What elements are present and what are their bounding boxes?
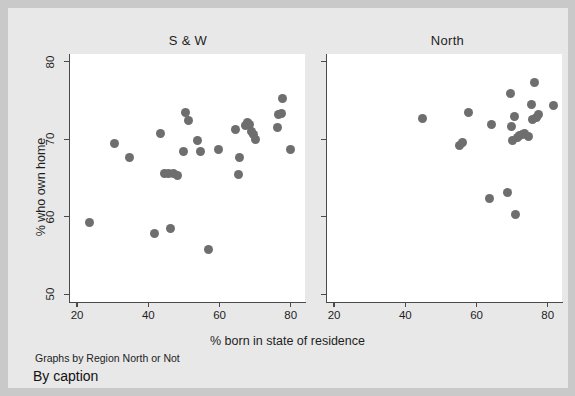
- data-point: [510, 112, 519, 121]
- graph-note: Graphs by Region North or Not: [35, 352, 180, 364]
- y-axis-line-right: [326, 54, 327, 303]
- data-point: [193, 136, 202, 145]
- plot-area-left: [70, 54, 305, 302]
- y-tick-0-0: [64, 294, 70, 295]
- x-tick-label-0-3: 80: [271, 309, 311, 321]
- y-tick-1-3: [321, 61, 327, 62]
- x-tick-1-2: [476, 302, 477, 307]
- data-point: [235, 153, 244, 162]
- data-point: [234, 170, 243, 179]
- graph-caption: By caption: [33, 368, 98, 384]
- page-edge-top: [0, 0, 575, 8]
- x-axis-line-left: [69, 302, 306, 303]
- data-point: [487, 120, 496, 129]
- x-tick-1-1: [405, 302, 406, 307]
- x-tick-0-0: [76, 302, 77, 307]
- data-point: [549, 101, 558, 110]
- data-point: [507, 122, 516, 131]
- y-tick-label-0: 50: [42, 281, 58, 307]
- y-axis-line-left: [69, 54, 70, 303]
- data-point: [506, 89, 515, 98]
- data-point: [156, 129, 165, 138]
- x-axis-title: % born in state of residence: [0, 334, 575, 348]
- data-point: [524, 132, 533, 141]
- y-tick-label-2: 70: [42, 126, 58, 152]
- figure-canvas: S & W North % who own home % born in sta…: [0, 0, 575, 396]
- page-edge-bottom: [0, 388, 575, 396]
- data-point: [530, 78, 539, 87]
- data-point: [418, 114, 427, 123]
- data-point: [196, 147, 205, 156]
- y-tick-0-3: [64, 61, 70, 62]
- data-point: [150, 229, 159, 238]
- x-tick-0-3: [290, 302, 291, 307]
- x-tick-label-1-1: 40: [385, 309, 425, 321]
- y-tick-1-2: [321, 139, 327, 140]
- data-point: [214, 145, 223, 154]
- x-tick-1-3: [547, 302, 548, 307]
- data-point: [485, 194, 494, 203]
- data-point: [286, 145, 295, 154]
- x-tick-label-0-2: 60: [200, 309, 240, 321]
- y-tick-label-1: 60: [42, 204, 58, 230]
- data-point: [110, 139, 119, 148]
- plot-area-right: [327, 54, 562, 302]
- panel-title-left: S & W: [68, 33, 308, 48]
- x-tick-label-0-0: 20: [57, 309, 97, 321]
- data-point: [166, 224, 175, 233]
- x-tick-0-2: [219, 302, 220, 307]
- x-tick-1-0: [333, 302, 334, 307]
- y-tick-1-0: [321, 294, 327, 295]
- data-point: [527, 100, 536, 109]
- data-point: [458, 138, 467, 147]
- y-tick-1-1: [321, 216, 327, 217]
- data-point: [534, 110, 543, 119]
- data-point: [179, 147, 188, 156]
- x-tick-label-1-3: 80: [528, 309, 568, 321]
- x-tick-label-1-0: 20: [314, 309, 354, 321]
- x-axis-line-right: [326, 302, 563, 303]
- x-tick-0-1: [148, 302, 149, 307]
- x-tick-label-0-1: 40: [128, 309, 168, 321]
- data-point: [204, 245, 213, 254]
- data-point: [464, 108, 473, 117]
- y-tick-label-3: 80: [42, 49, 58, 75]
- y-tick-0-1: [64, 216, 70, 217]
- y-tick-0-2: [64, 139, 70, 140]
- x-tick-label-1-2: 60: [457, 309, 497, 321]
- panel-title-right: North: [330, 33, 565, 48]
